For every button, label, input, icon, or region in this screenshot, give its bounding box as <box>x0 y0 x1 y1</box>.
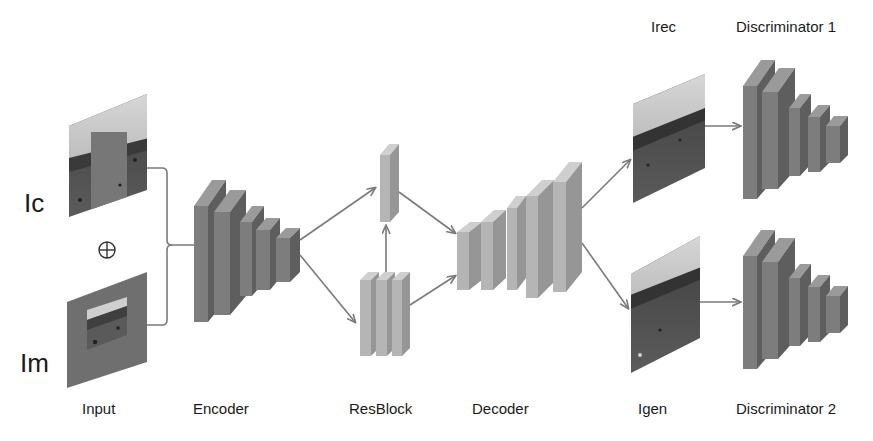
arrow-res-top-to-decoder <box>399 192 455 233</box>
discriminator-1: Discriminator 1 <box>736 18 848 199</box>
decoder-layer-1 <box>457 222 482 290</box>
decoder-layer-2 <box>481 210 506 290</box>
decoder-layer-3 <box>507 196 526 290</box>
resblock-top-layer <box>380 144 399 222</box>
ic-label: Ic <box>24 188 44 218</box>
irec-image <box>630 70 710 210</box>
d2-layer-5 <box>826 286 848 333</box>
architecture-diagram: Ic Im <box>0 0 873 441</box>
encoder-layer-5 <box>276 228 300 282</box>
discriminator-2-label: Discriminator 2 <box>736 400 836 417</box>
input-section: Ic Im <box>20 90 194 417</box>
arrow-decoder-to-irec <box>582 160 630 208</box>
arrow-encoder-to-res-bottom <box>300 255 355 322</box>
arrow-decoder-to-igen <box>582 243 628 308</box>
d1-layer-3 <box>789 94 811 176</box>
resblock-bottom-layer-3 <box>392 272 410 356</box>
combine-icon <box>99 242 115 258</box>
d2-layer-3 <box>789 264 811 346</box>
im-label: Im <box>20 348 49 378</box>
discriminator-2: Discriminator 2 <box>736 230 848 417</box>
arrow-encoder-to-res-top <box>300 188 375 240</box>
d1-layer-5 <box>826 116 848 163</box>
decoder-caption: Decoder <box>472 400 529 417</box>
igen-image <box>628 232 704 377</box>
decoder: Decoder <box>457 162 582 417</box>
resblock: ResBlock <box>349 144 413 417</box>
discriminator-1-label: Discriminator 1 <box>736 18 836 35</box>
decoder-layer-4 <box>526 180 554 298</box>
encoder-caption: Encoder <box>193 400 249 417</box>
ic-connector <box>147 168 194 245</box>
irec-label: Irec <box>651 18 677 35</box>
arrow-res-bottom-to-decoder <box>410 276 455 305</box>
outputs: Irec Igen <box>628 18 710 417</box>
im-connector <box>147 245 172 325</box>
decoder-layer-5 <box>553 162 582 292</box>
im-image <box>65 270 150 390</box>
igen-label: Igen <box>638 400 667 417</box>
ic-image <box>69 90 149 222</box>
input-caption: Input <box>82 400 116 417</box>
encoder: Encoder <box>193 180 300 417</box>
resblock-caption: ResBlock <box>349 400 413 417</box>
